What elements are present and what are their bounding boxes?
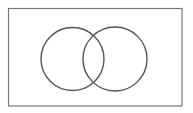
venn-diagram (0, 0, 193, 113)
set-a-circle (41, 28, 104, 91)
universe-rectangle (9, 9, 183, 107)
set-b-circle (83, 27, 147, 91)
